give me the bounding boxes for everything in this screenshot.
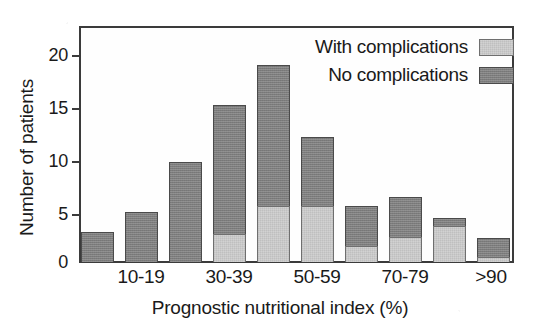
bar-segment-with-complications <box>433 226 466 262</box>
legend: With complications No complications <box>302 33 514 89</box>
x-axis-tick-labels: 10-19 30-39 50-59 70-79 >90 <box>81 266 512 292</box>
bar-segment-with-complications <box>257 206 290 262</box>
bar-40-49 <box>257 65 290 262</box>
bar-0-9 <box>81 232 114 262</box>
x-tick-label-over-90: >90 <box>475 266 506 288</box>
bar-20-29 <box>169 162 202 262</box>
bar-segment-no-complications <box>345 206 378 246</box>
legend-label-with-complications: With complications <box>315 37 468 57</box>
bar-segment-no-complications <box>477 238 510 257</box>
bar-segment-no-complications <box>389 197 422 237</box>
bar-segment-with-complications <box>301 206 334 262</box>
figure-chart: 20 15 10 5 0 Number of patients <box>0 0 560 334</box>
bar-segment-with-complications <box>389 237 422 262</box>
legend-label-no-complications: No complications <box>328 65 468 85</box>
x-tick-label-50-59: 50-59 <box>293 266 340 288</box>
bar-segment-no-complications <box>301 137 334 207</box>
y-axis-title: Number of patients <box>17 38 36 278</box>
x-tick-label-70-79: 70-79 <box>381 266 428 288</box>
x-tick-label-30-39: 30-39 <box>205 266 252 288</box>
bar-10-19 <box>125 212 158 262</box>
bar-50-59 <box>301 137 334 262</box>
dark-gray-swatch-icon <box>479 67 514 84</box>
bar-60-69 <box>345 206 378 262</box>
x-tick-label-10-19: 10-19 <box>117 266 164 288</box>
bar-segment-no-complications <box>433 218 466 226</box>
bar-80-89 <box>433 218 466 262</box>
legend-entry-no-complications: No complications <box>302 61 514 89</box>
bar-over-90 <box>477 238 510 262</box>
bar-segment-no-complications <box>125 212 158 262</box>
bar-segment-with-complications <box>477 257 510 262</box>
legend-entry-with-complications: With complications <box>302 33 514 61</box>
bar-30-39 <box>213 105 246 262</box>
bar-segment-no-complications <box>257 65 290 206</box>
bar-segment-with-complications <box>345 246 378 262</box>
bar-70-79 <box>389 197 422 262</box>
bar-segment-no-complications <box>81 232 114 262</box>
bar-segment-no-complications <box>213 105 246 234</box>
bar-segment-no-complications <box>169 162 202 262</box>
bar-segment-with-complications <box>213 234 246 262</box>
light-gray-swatch-icon <box>479 39 514 56</box>
x-axis-title: Prognostic nutritional index (%) <box>0 298 560 318</box>
